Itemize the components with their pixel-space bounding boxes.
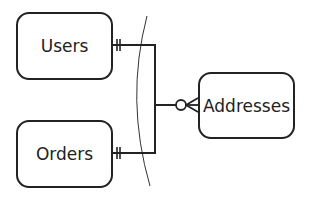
zero-many-marker-addresses: [176, 98, 198, 112]
relationship-lines: [113, 45, 176, 153]
entity-label: Orders: [36, 144, 93, 164]
entity-label: Users: [41, 36, 89, 56]
divider-arc: [137, 16, 150, 186]
entity-users[interactable]: Users: [16, 12, 113, 80]
entity-orders[interactable]: Orders: [16, 120, 113, 188]
entity-addresses[interactable]: Addresses: [198, 72, 295, 139]
entity-label: Addresses: [203, 96, 290, 116]
